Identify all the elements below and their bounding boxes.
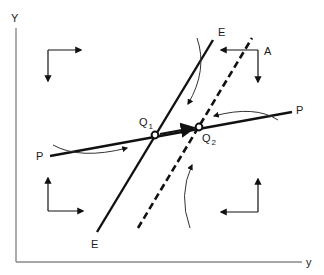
p-label-right: P [296,104,303,116]
quadrant-arrows-top-right [221,50,258,82]
p-line [50,112,292,156]
e-label-bottom: E [91,238,98,250]
q2-label: Q2 [202,132,217,147]
point-q1: Q1 [139,116,158,138]
quadrant-arrows-top-left [48,50,81,81]
region-label-a: A [264,45,272,57]
q1-label: Q1 [139,116,154,131]
p-label-left: P [36,150,43,162]
phase-diagram: Y y E E P P Q1 Q2 A [0,0,324,275]
q1-marker [152,132,159,139]
e-label-top: E [218,26,225,38]
quadrant-arrows-bottom-right [221,179,258,212]
curve-arrow-p-right [214,111,278,120]
q2-marker [196,124,203,131]
x-axis-label: y [306,256,312,268]
curve-arrow-e-bottom [184,165,192,228]
quadrant-arrows-bottom-left [48,178,83,211]
y-axis-label: Y [11,12,19,24]
